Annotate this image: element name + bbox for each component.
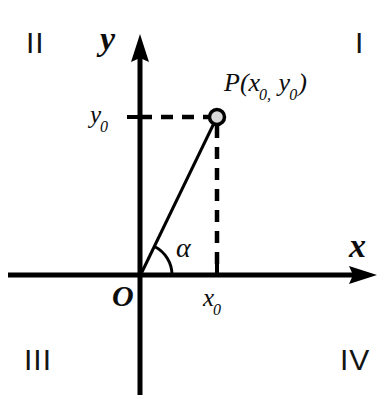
quadrant-label-i: I — [355, 28, 364, 58]
point-p-sub-y: 0 — [289, 86, 297, 103]
quadrant-label-ii: II — [26, 28, 45, 58]
point-p-close: ) — [298, 68, 307, 97]
quadrant-label-iii: III — [24, 345, 52, 375]
origin-label: O — [112, 281, 134, 311]
x0-tick-label: x0 — [203, 285, 222, 315]
y0-tick-label: y0 — [90, 102, 109, 132]
point-p-mid: y — [272, 68, 290, 97]
angle-alpha-label: α — [176, 234, 191, 262]
y-axis-label: y — [100, 22, 115, 56]
coordinate-axes-svg — [0, 0, 392, 407]
x-axis-label: x — [349, 229, 366, 263]
point-p-marker — [210, 110, 225, 125]
point-p-prefix: P(x — [224, 68, 260, 97]
point-p-label: P(x0, y0) — [224, 70, 307, 100]
coordinate-plane-figure: II I III IV y x O y0 x0 P(x0, y0) α — [0, 0, 392, 407]
point-p-sub-x: 0, — [259, 86, 271, 103]
x0-subscript: 0 — [213, 301, 221, 318]
x-axis-arrowhead-icon — [349, 266, 377, 284]
y-axis-arrowhead-icon — [131, 34, 149, 62]
quadrant-label-iv: IV — [340, 345, 370, 375]
y0-subscript: 0 — [100, 118, 108, 135]
angle-arc — [155, 247, 173, 276]
